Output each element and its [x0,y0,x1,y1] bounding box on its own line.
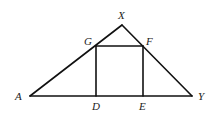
label-f: F [145,35,153,47]
label-d: D [91,100,100,112]
segment-ax [30,25,122,96]
label-y: Y [198,90,206,102]
segment-xy [122,25,192,96]
label-g: G [84,35,92,47]
label-e: E [138,100,146,112]
square-defg [96,46,143,96]
triangle-square-diagram: X G F A D E Y [0,0,219,114]
label-a: A [14,90,22,102]
triangle-axy [30,25,192,96]
label-x: X [117,9,126,21]
